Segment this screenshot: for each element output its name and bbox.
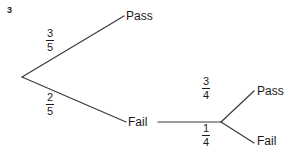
branch-line-pass-top bbox=[22, 16, 124, 77]
fraction-numerator: 3 bbox=[46, 28, 54, 39]
outcome-label-fail-top: Fail bbox=[128, 116, 147, 128]
fraction-denominator: 5 bbox=[46, 106, 54, 117]
outcome-label-pass-top: Pass bbox=[126, 10, 153, 22]
branch-line-fail-sub bbox=[221, 122, 254, 143]
question-number: 3 bbox=[7, 6, 12, 15]
fraction-denominator: 4 bbox=[202, 90, 210, 101]
fraction-denominator: 4 bbox=[202, 137, 210, 148]
probability-tree-diagram: 3 Pass Fail Pass Fail 3 5 2 5 3 4 1 4 bbox=[0, 0, 298, 166]
tree-branch-lines bbox=[0, 0, 298, 166]
outcome-label-fail-sub: Fail bbox=[257, 135, 276, 147]
fraction-numerator: 3 bbox=[202, 76, 210, 87]
fraction-denominator: 5 bbox=[46, 42, 54, 53]
probability-fraction-pass-sub: 3 4 bbox=[202, 76, 210, 102]
branch-line-fail-top bbox=[22, 77, 126, 122]
probability-fraction-fail-top: 2 5 bbox=[46, 92, 54, 118]
fraction-numerator: 1 bbox=[202, 123, 210, 134]
branch-line-pass-sub bbox=[221, 91, 254, 122]
probability-fraction-pass-top: 3 5 bbox=[46, 28, 54, 54]
probability-fraction-fail-sub: 1 4 bbox=[202, 123, 210, 149]
outcome-label-pass-sub: Pass bbox=[257, 85, 284, 97]
fraction-numerator: 2 bbox=[46, 92, 54, 103]
